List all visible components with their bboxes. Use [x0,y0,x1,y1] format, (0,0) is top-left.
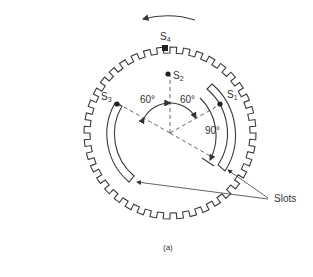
sensor-s3-dot [114,101,119,106]
label-s3: S3 [101,91,112,103]
sensor-s4-dot [162,45,168,51]
rotation-arrow [143,16,195,20]
angle-tick [202,158,214,166]
label-s1: S1 [227,89,238,101]
angle-arc-left [144,103,170,118]
angle-label-left: 60° [140,94,155,105]
angle-label-right: 60° [180,94,195,105]
angle-label-90: 90° [205,125,220,136]
encoder-disk-diagram: S4 S2 S3 S1 60° 60° 90° Slots (a) [0,0,313,277]
sensor-s1-dot [217,101,222,106]
callout-leader-1 [228,170,268,198]
angle-arc-right [170,103,196,118]
figure-caption: (a) [163,243,173,252]
slot-left [107,103,134,182]
sensor-s2-dot [165,71,170,76]
label-s4: S4 [160,31,171,43]
radial-line-slot-end [170,133,212,157]
callout-slots: Slots [274,193,296,204]
radial-line-s3 [117,103,170,133]
label-s2: S2 [173,70,184,82]
